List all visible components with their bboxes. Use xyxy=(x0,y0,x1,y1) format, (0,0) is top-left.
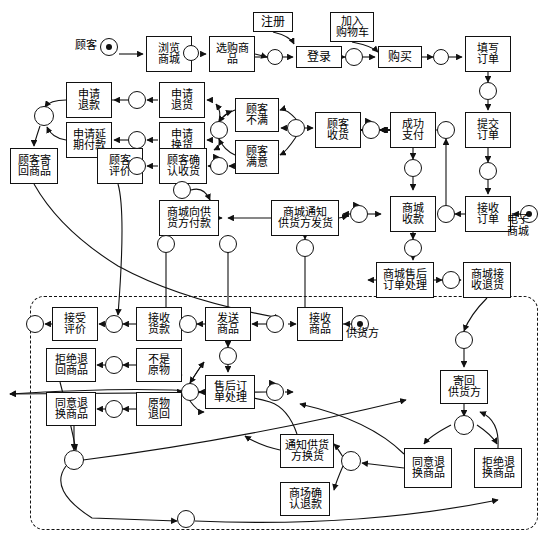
place-p25[interactable] xyxy=(26,315,44,333)
caption-cap-emall: 电子 商城 xyxy=(498,214,538,237)
transition-t-customer-send-back[interactable]: 顾客寄 回商品 xyxy=(10,148,58,184)
place-p6[interactable] xyxy=(479,162,497,180)
transition-t-receive-payment[interactable]: 接收 货款 xyxy=(136,307,182,341)
place-p22[interactable] xyxy=(157,235,175,253)
transition-t-mall-accept-return[interactable]: 商城接 收退货 xyxy=(463,262,511,298)
transition-t-customer-receive[interactable]: 顾客 收货 xyxy=(315,112,361,148)
place-p4[interactable] xyxy=(433,49,449,65)
place-p21[interactable] xyxy=(442,271,460,289)
place-p29[interactable] xyxy=(219,347,237,365)
transition-t-fill-order[interactable]: 填写 订单 xyxy=(465,36,511,72)
place-p30[interactable] xyxy=(105,356,123,374)
transition-t-mall-pay-supplier[interactable]: 商城向供 货方付款 xyxy=(159,200,219,236)
place-p17[interactable] xyxy=(173,181,191,199)
transition-t-pay-success[interactable]: 成功 支付 xyxy=(390,112,436,148)
place-p12[interactable] xyxy=(128,91,146,109)
caption-cap-supplier: 供货方 xyxy=(342,328,382,340)
place-p10[interactable] xyxy=(287,119,305,137)
place-p34[interactable] xyxy=(64,450,84,470)
transition-t-notify-exchange[interactable]: 通知供货 方换货 xyxy=(280,434,334,468)
place-p26[interactable] xyxy=(105,315,123,333)
transition-t-agree-exchange[interactable]: 同意退 换商品 xyxy=(46,392,96,426)
place-p5[interactable] xyxy=(479,82,497,100)
place-p16[interactable] xyxy=(34,106,54,126)
place-p11[interactable] xyxy=(210,121,228,139)
place-p38[interactable] xyxy=(177,510,195,528)
place-p27[interactable] xyxy=(179,315,197,333)
place-p19[interactable] xyxy=(350,205,368,223)
transition-t-confirm-receipt[interactable]: 顾客确 认收货 xyxy=(159,148,207,184)
transition-t-add-cart[interactable]: 加入 购物车 xyxy=(330,12,374,42)
place-p31[interactable] xyxy=(181,383,199,401)
transition-t-refuse-return-item[interactable]: 拒绝退 回商品 xyxy=(46,348,96,382)
transition-t-send-goods[interactable]: 发送 商品 xyxy=(205,307,251,341)
place-p2[interactable] xyxy=(267,49,283,65)
transition-t-select-goods[interactable]: 选购商 品 xyxy=(209,36,255,72)
transition-t-register[interactable]: 注册 xyxy=(253,12,293,32)
place-p28[interactable] xyxy=(266,315,284,333)
place-p23[interactable] xyxy=(219,235,237,253)
place-p32[interactable] xyxy=(105,400,123,418)
transition-t-customer-happy[interactable]: 顾客 满意 xyxy=(235,140,279,174)
transition-t-submit-order[interactable]: 提交 订单 xyxy=(465,112,511,148)
transition-t-original-returned[interactable]: 原物 退回 xyxy=(136,392,182,426)
place-p18[interactable] xyxy=(404,159,422,177)
place-p7[interactable] xyxy=(437,205,455,223)
transition-t-apply-return[interactable]: 申请 退货 xyxy=(159,82,205,118)
transition-t-mall-confirm-refund[interactable]: 商场确 认退款 xyxy=(280,482,330,516)
transition-t-sup-refuse-exchange[interactable]: 拒绝退 换商品 xyxy=(474,448,522,488)
transition-t-not-original[interactable]: 不是 原物 xyxy=(136,348,182,382)
place-p36[interactable] xyxy=(454,415,474,435)
place-p9[interactable] xyxy=(362,121,380,139)
transition-t-mall-collect[interactable]: 商城 收款 xyxy=(390,196,436,232)
caption-cap-customer: 顾客 xyxy=(66,40,106,52)
place-p24[interactable] xyxy=(296,239,314,257)
place-p3[interactable] xyxy=(345,48,363,66)
place-p33[interactable] xyxy=(266,383,284,401)
petri-net-diagram: 浏览 商城选购商 品注册登录加入 购物车购买填写 订单提交 订单接收 订单申请 … xyxy=(0,0,549,543)
transition-t-customer-unhappy[interactable]: 顾客 不满 xyxy=(235,98,279,132)
place-p1[interactable] xyxy=(183,45,199,61)
place-p13[interactable] xyxy=(128,131,146,149)
transition-t-buy[interactable]: 购买 xyxy=(378,46,422,68)
transition-t-aftersale-process[interactable]: 售后订 单处理 xyxy=(205,375,255,409)
place-p35[interactable] xyxy=(455,331,473,349)
place-p20[interactable] xyxy=(404,239,422,257)
transition-t-accept-review[interactable]: 接受 评价 xyxy=(52,307,98,341)
transition-t-login[interactable]: 登录 xyxy=(296,46,342,68)
transition-t-apply-refund[interactable]: 申请 退款 xyxy=(66,82,112,118)
transition-t-receive-order-sup[interactable]: 接收 商品 xyxy=(297,307,343,341)
transition-t-send-back-supplier[interactable]: 寄回 供货方 xyxy=(440,370,488,404)
transition-t-mall-aftersale[interactable]: 商城售后 订单处理 xyxy=(376,262,434,298)
place-p8[interactable] xyxy=(437,121,455,139)
place-p15[interactable] xyxy=(210,157,228,175)
place-p37[interactable] xyxy=(341,451,361,471)
place-p14[interactable] xyxy=(128,157,146,175)
transition-t-mall-notify-ship[interactable]: 商城通知 供货方发货 xyxy=(271,200,339,236)
transition-t-sup-agree-exchange[interactable]: 同意退 换商品 xyxy=(404,448,452,488)
